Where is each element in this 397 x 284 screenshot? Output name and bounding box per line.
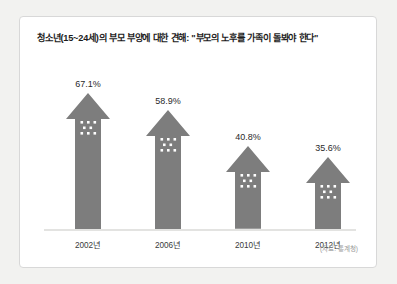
source-note: (자료: 통계청) <box>320 243 358 253</box>
bar-value-label: 35.6% <box>315 143 341 153</box>
bar-group: 58.9%2006년 <box>146 110 190 229</box>
bar-group: 67.1%2002년 <box>66 93 110 229</box>
bar-group: 35.6%2012년 <box>306 157 350 229</box>
category-label: 2010년 <box>235 238 261 250</box>
category-label: 2002년 <box>75 238 101 250</box>
bar-arrow-icon <box>66 93 110 229</box>
bar-value-label: 40.8% <box>235 132 261 142</box>
bar-arrow-icon <box>146 110 190 229</box>
chart-plot-area: 67.1%2002년58.9%2006년40.8%2010년35.6%2012년 <box>20 17 378 269</box>
bar-value-label: 67.1% <box>75 79 101 89</box>
baseline-axis <box>44 229 356 231</box>
category-label: 2006년 <box>155 238 181 250</box>
bar-arrow-icon <box>226 146 270 229</box>
chart-card: 청소년(15~24세)의 부모 부양에 대한 견해: "부모의 노후를 가족이 … <box>19 16 377 268</box>
bar-value-label: 58.9% <box>155 96 181 106</box>
bar-group: 40.8%2010년 <box>226 146 270 229</box>
bar-arrow-icon <box>306 157 350 229</box>
